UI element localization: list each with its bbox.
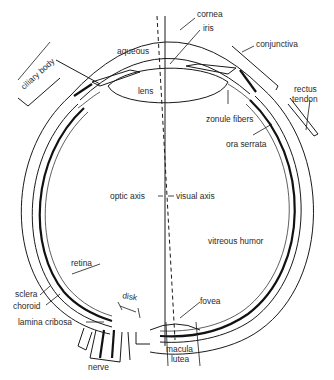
optic-nerve-shape	[78, 328, 150, 362]
cornea-shape	[70, 42, 262, 100]
label-cornea: cornea	[197, 9, 223, 19]
label-nerve: nerve	[88, 362, 109, 372]
label-visual-axis: visual axis	[176, 191, 215, 201]
label-conjunctiva: conjunctiva	[256, 39, 298, 49]
label-disk: disk	[122, 290, 139, 303]
label-zonule-fibers: zonule fibers	[206, 114, 254, 124]
label-ora-serrata: ora serrata	[226, 139, 267, 149]
label-lamina-cribosa: lamina cribosa	[18, 317, 72, 327]
label-tendon: tendon	[292, 94, 318, 104]
label-optic-axis: optic axis	[110, 191, 145, 201]
sclera-wall	[21, 88, 313, 354]
label-choroid: choroid	[13, 301, 41, 311]
label-vitreous-humor: vitreous humor	[208, 236, 264, 246]
label-sclera: sclera	[15, 289, 38, 299]
label-retina: retina	[71, 258, 92, 268]
leader-lines	[18, 18, 310, 366]
label-fovea: fovea	[200, 296, 221, 306]
label-rectus: rectus	[294, 84, 317, 94]
visual-axis-line	[157, 16, 175, 340]
label-lutea: lutea	[171, 354, 190, 364]
label-aqueous: aqueous	[117, 46, 149, 56]
label-iris: iris	[203, 23, 214, 33]
label-lens: lens	[138, 86, 153, 96]
label-macula: macula	[166, 344, 193, 354]
eye-diagram: cornea iris conjunctiva aqueous lens cil…	[0, 0, 334, 380]
